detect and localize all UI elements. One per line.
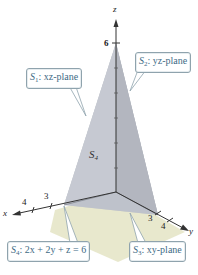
z-tick-6: 6 [104, 38, 109, 48]
x-tick-3: 3 [44, 191, 49, 201]
x-axis-label: x [3, 208, 7, 218]
z-axis-label: z [113, 4, 117, 14]
y-axis-label: y [189, 226, 193, 236]
x-tick-4: 4 [22, 197, 27, 207]
diagram-graphics [0, 0, 198, 275]
y-tick-4: 4 [161, 221, 166, 231]
callout-s2-pointer [130, 70, 146, 91]
callout-s1-xz-plane: S1: xz-plane [26, 68, 82, 89]
surface-s4-label: S4 [89, 149, 98, 163]
callout-s2-yz-plane: S2: yz-plane [135, 52, 191, 73]
y-tick-3: 3 [148, 213, 153, 223]
callout-s3-xy-plane: S3: xy-plane [129, 241, 186, 262]
x-axis-arrow-icon [12, 211, 21, 216]
solid-region-diagram: z 6 x 3 4 y 3 4 S4 S1: xz-plane S2: yz-p… [0, 0, 198, 275]
z-axis-arrow-icon [114, 19, 119, 27]
callout-s4-equation: S4: 2x + 2y + z = 6 [7, 241, 90, 262]
